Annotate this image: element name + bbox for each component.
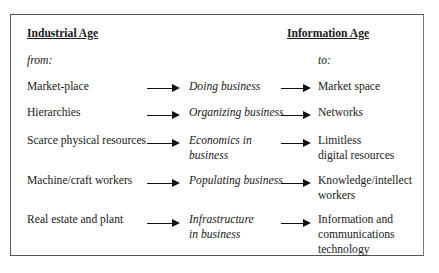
to-item-line2: communications [318,228,395,241]
industrial-age-header: Industrial Age [27,27,98,40]
right-arrow-icon [147,84,180,92]
right-arrow-icon [281,139,311,147]
right-arrow-icon [147,179,180,187]
to-item-line1: Limitless [318,134,361,147]
to-item-line1: Information and [318,213,393,226]
via-item-line2: business [189,149,228,162]
information-age-header: Information Age [287,27,369,40]
via-item: Populating business [189,174,283,187]
right-arrow-icon [281,84,311,92]
via-item-line1: Economics in [189,134,252,147]
to-item-line2: digital resources [318,149,394,162]
to-label: to: [318,54,331,67]
to-item-line3: technology [318,243,370,256]
right-arrow-icon [281,219,311,227]
right-arrow-icon [281,111,311,119]
right-arrow-icon [281,179,311,187]
from-item: Hierarchies [27,106,80,119]
via-item: Doing business [189,80,260,93]
from-item: Scarce physical resources [27,134,146,147]
to-item-line1: Knowledge/intellect [318,174,412,187]
via-item: Organizing business [189,106,284,119]
via-item-line1: Infrastructure [189,213,254,226]
right-arrow-icon [147,111,180,119]
from-item: Machine/craft workers [27,174,132,187]
from-item: Market-place [27,80,89,93]
from-label: from: [27,54,52,67]
to-item: Networks [318,106,363,119]
to-item-line2: workers [318,189,355,202]
right-arrow-icon [147,219,180,227]
via-item-line2: in business [189,228,240,241]
to-item: Market space [318,80,380,93]
right-arrow-icon [147,139,180,147]
from-item: Real estate and plant [27,213,123,226]
